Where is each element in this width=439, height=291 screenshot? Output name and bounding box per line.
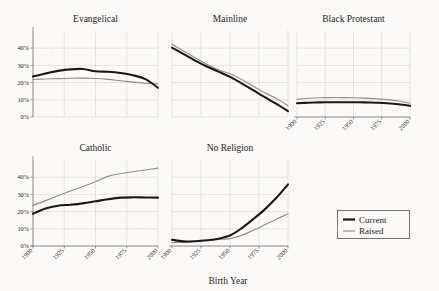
y-tick-label: 40% — [17, 173, 29, 180]
legend-label-current: Current — [359, 215, 387, 225]
x-tick-label: 1975 — [246, 247, 260, 261]
panel-title: Mainline — [213, 14, 247, 24]
x-tick-label: 1950 — [82, 247, 96, 261]
y-tick-label: 30% — [17, 62, 29, 69]
y-tick-label: 20% — [17, 208, 29, 215]
panel-black-protestant: Black Protestant19001925195019752000 — [284, 14, 411, 132]
x-tick-label: 1900 — [284, 118, 298, 132]
x-tick-label: 2000 — [275, 247, 289, 261]
panel-catholic: Catholic0%10%20%30%40%190019251950197520… — [17, 143, 158, 261]
panel-title: No Religion — [207, 143, 254, 153]
x-axis-title: Birth Year — [208, 276, 248, 286]
y-tick-label: 10% — [17, 96, 29, 103]
panel-title: Black Protestant — [322, 14, 385, 24]
x-tick-label: 1925 — [51, 247, 65, 261]
x-tick-label: 2000 — [397, 118, 411, 132]
panel-title: Evangelical — [73, 14, 118, 24]
y-tick-label: 40% — [17, 44, 29, 51]
x-tick-label: 2000 — [145, 247, 159, 261]
panel-no-religion: No Religion19001925195019752000 — [159, 143, 289, 261]
x-tick-label: 1925 — [188, 247, 202, 261]
x-tick-label: 1950 — [340, 118, 354, 132]
x-tick-label: 1925 — [312, 118, 326, 132]
panel-evangelical: Evangelical0%10%20%30%40% — [17, 14, 158, 120]
x-tick-label: 1975 — [369, 118, 383, 132]
y-tick-label: 10% — [17, 225, 29, 232]
panel-title: Catholic — [79, 143, 111, 153]
y-tick-label: 20% — [17, 79, 29, 86]
y-tick-label: 30% — [17, 191, 29, 198]
chart-legend: Current Raised — [338, 211, 410, 239]
x-tick-label: 1950 — [217, 247, 231, 261]
x-tick-label: 1975 — [114, 247, 128, 261]
y-tick-label: 0% — [21, 113, 30, 120]
legend-label-raised: Raised — [359, 226, 384, 236]
religion-by-birth-year-figure: Evangelical0%10%20%30%40%MainlineBlack P… — [0, 0, 439, 291]
x-tick-label: 1900 — [159, 247, 173, 261]
panel-mainline: Mainline — [172, 14, 288, 117]
